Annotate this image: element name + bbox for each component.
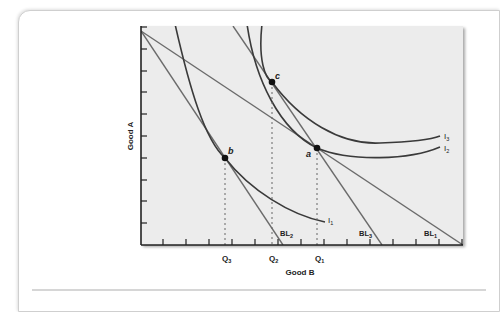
point-label-a: a — [306, 149, 311, 159]
tick-label-q3: Q3 — [222, 254, 231, 264]
tick-label-q2: Q2 — [269, 254, 278, 264]
x-axis-title: Good B — [286, 268, 315, 277]
tick-label-q1: Q1 — [315, 254, 324, 264]
point-a — [314, 145, 321, 152]
point-label-c: c — [275, 71, 280, 81]
point-label-b: b — [228, 146, 234, 156]
y-axis-title: Good A — [126, 121, 135, 150]
